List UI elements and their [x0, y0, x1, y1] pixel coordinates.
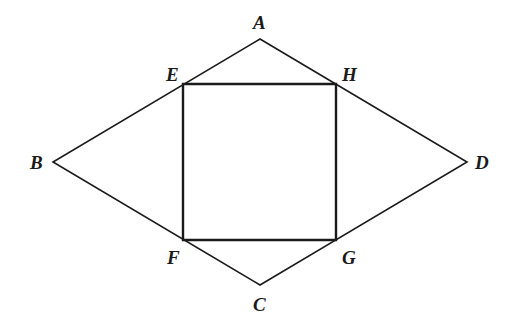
label-e: E [165, 64, 179, 85]
label-d: D [474, 152, 489, 173]
rectangle-efgh [183, 84, 336, 240]
label-g: G [342, 247, 356, 268]
label-f: F [166, 247, 180, 268]
label-h: H [341, 64, 358, 85]
label-a: A [252, 12, 266, 33]
label-c: C [253, 294, 266, 315]
rhombus-abcd [53, 39, 467, 285]
geometry-diagram: A B C D E F G H [0, 0, 513, 331]
label-b: B [29, 152, 43, 173]
